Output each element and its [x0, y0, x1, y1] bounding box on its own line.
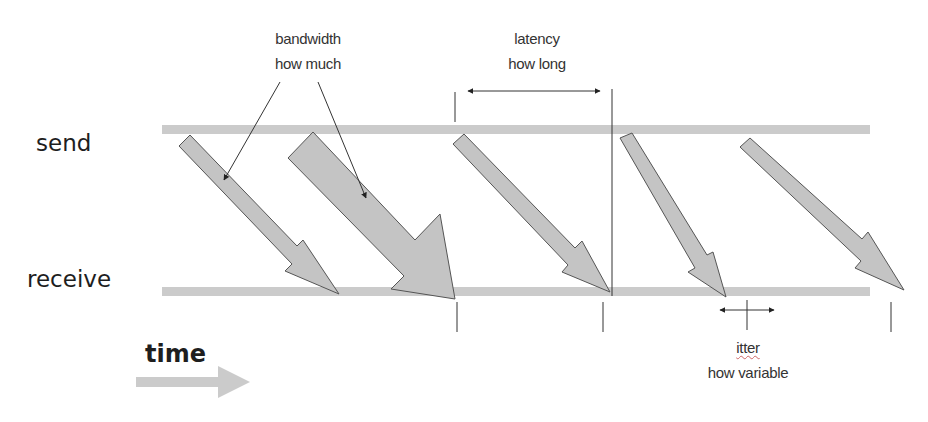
latency-title: latency: [487, 26, 587, 51]
packet-arrow-5: [740, 138, 904, 290]
receive-label: receive: [27, 266, 111, 292]
bandwidth-subtitle: how much: [248, 51, 368, 76]
bandwidth-title: bandwidth: [248, 26, 368, 51]
network-timing-diagram: send receive time bandwidth how much lat…: [0, 0, 928, 422]
latency-annotation: latency how long: [487, 26, 587, 76]
jitter-subtitle: how variable: [690, 360, 806, 385]
jitter-title: itter: [736, 339, 760, 356]
send-label: send: [36, 130, 91, 156]
send-timeline: [162, 125, 870, 134]
packet-arrow-4: [620, 133, 726, 297]
receive-timeline: [162, 287, 870, 296]
jitter-annotation: itter how variable: [690, 335, 806, 385]
time-arrow-icon: [136, 366, 250, 398]
time-label: time: [145, 340, 206, 368]
bandwidth-annotation: bandwidth how much: [248, 26, 368, 76]
latency-subtitle: how long: [487, 51, 587, 76]
packet-arrow-3: [453, 134, 610, 292]
